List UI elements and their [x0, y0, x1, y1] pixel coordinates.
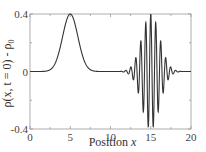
x-tick-label: 15 [145, 131, 157, 143]
data-series-line [30, 14, 191, 127]
x-axis-label: Position x [89, 135, 137, 149]
y-tick-label: 0.4 [14, 8, 28, 20]
x-tick-label: 5 [68, 131, 74, 143]
y-axis-label: ρ(x, t = 0) - ρ0 [0, 39, 16, 107]
x-tick-label: 20 [186, 131, 198, 143]
y-tick-label: -0.4 [11, 123, 29, 135]
chart: 05101520 -0.400.4 Position x ρ(x, t = 0)… [0, 0, 206, 152]
x-tick-label: 0 [27, 131, 33, 143]
y-tick-label: 0 [23, 66, 29, 78]
